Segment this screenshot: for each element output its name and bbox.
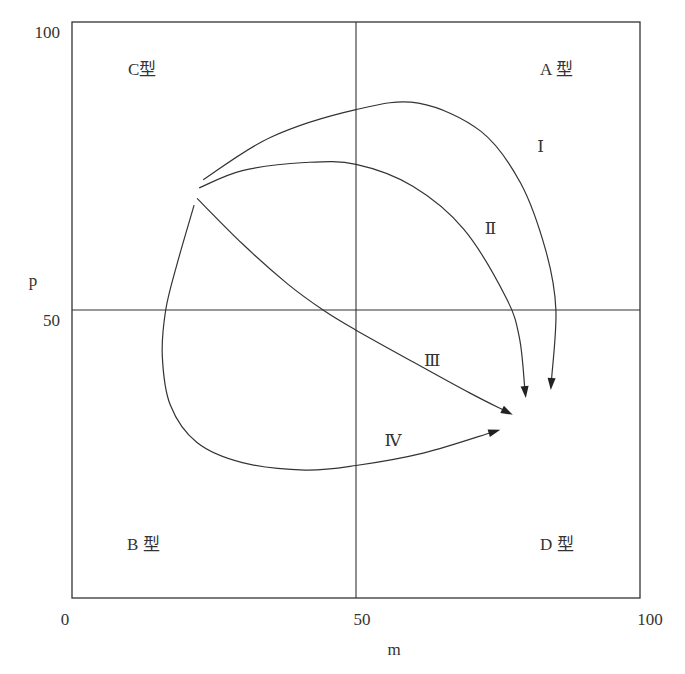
- y-tick-50: 50: [43, 311, 60, 330]
- curve-label-ii: Ⅱ: [485, 219, 497, 238]
- curves-group: [162, 102, 556, 470]
- arrowhead-i: [548, 378, 556, 390]
- quadrant-label-d: D 型: [540, 535, 574, 554]
- curve-label-i: Ⅰ: [537, 137, 544, 156]
- arrowhead-iii: [500, 406, 513, 415]
- curve-label-iii: Ⅲ: [424, 351, 440, 370]
- curve-ii: [199, 162, 525, 389]
- quadrant-label-b: B 型: [127, 535, 160, 554]
- x-axis-label: m: [387, 640, 400, 659]
- y-tick-100: 100: [35, 23, 61, 42]
- curve-i: [203, 102, 556, 380]
- curve-iv: [162, 205, 491, 470]
- quadrant-label-c: C型: [128, 60, 156, 79]
- diagram-svg: 100 50 0 50 100 p m C型 A 型 B 型 D 型 ⅠⅡⅢⅣ: [0, 0, 685, 674]
- x-tick-0: 0: [61, 610, 70, 629]
- y-axis-label: p: [29, 271, 38, 290]
- arrowhead-ii: [521, 386, 529, 398]
- curve-iii: [197, 198, 504, 410]
- arrowhead-iv: [488, 430, 501, 438]
- quadrant-label-a: A 型: [540, 60, 573, 79]
- x-tick-100: 100: [637, 610, 663, 629]
- x-tick-50: 50: [354, 610, 371, 629]
- curve-label-iv: Ⅳ: [384, 431, 402, 450]
